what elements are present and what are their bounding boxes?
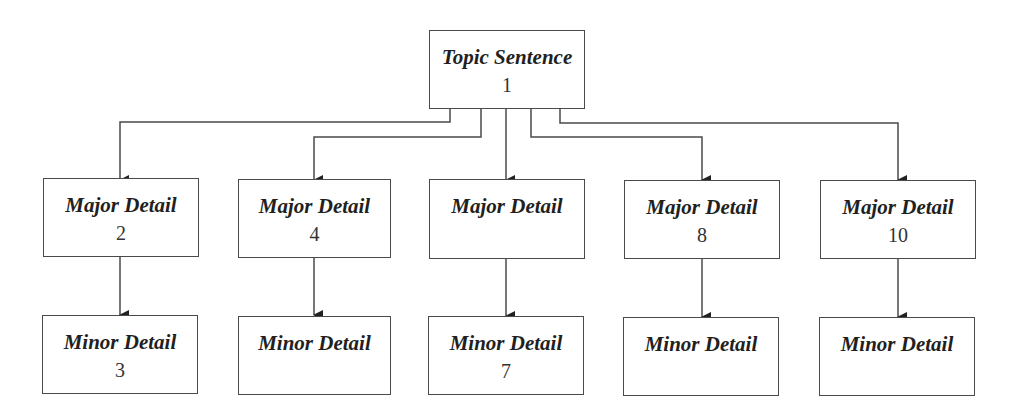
- major-detail-title: Major Detail: [44, 193, 198, 217]
- minor-detail-box: Minor Detail: [623, 317, 779, 396]
- edge-topic-major-4: [560, 108, 898, 180]
- minor-detail-number: 7: [429, 359, 583, 383]
- major-detail-number: 4: [239, 222, 390, 246]
- major-detail-title: Major Detail: [239, 194, 390, 218]
- major-detail-box: Major Detail 2: [43, 178, 199, 257]
- major-detail-box: Major Detail 8: [624, 180, 780, 259]
- minor-detail-title: Minor Detail: [239, 331, 390, 355]
- edge-topic-major-1: [314, 108, 481, 180]
- major-detail-title: Major Detail: [625, 195, 779, 219]
- minor-detail-title: Minor Detail: [429, 331, 583, 355]
- topic-number: 1: [430, 73, 584, 97]
- major-detail-title: Major Detail: [821, 195, 975, 219]
- major-detail-number: 8: [625, 223, 779, 247]
- edge-topic-major-3: [531, 108, 702, 180]
- major-detail-box: Major Detail: [429, 179, 585, 259]
- minor-detail-box: Minor Detail: [238, 316, 391, 395]
- minor-detail-box: Minor Detail 7: [428, 316, 584, 395]
- minor-detail-title: Minor Detail: [43, 330, 197, 354]
- minor-detail-box: Minor Detail 3: [42, 315, 198, 394]
- major-detail-number: 10: [821, 223, 975, 247]
- minor-detail-box: Minor Detail: [819, 317, 975, 396]
- minor-detail-title: Minor Detail: [624, 332, 778, 356]
- topic-title: Topic Sentence: [430, 45, 584, 69]
- major-detail-box: Major Detail 4: [238, 179, 391, 258]
- major-detail-box: Major Detail 10: [820, 180, 976, 259]
- edge-topic-major-0: [120, 108, 450, 180]
- major-detail-number: 2: [44, 221, 198, 245]
- topic-sentence-box: Topic Sentence 1: [429, 30, 585, 109]
- major-detail-title: Major Detail: [430, 194, 584, 218]
- minor-detail-title: Minor Detail: [820, 332, 974, 356]
- minor-detail-number: 3: [43, 358, 197, 382]
